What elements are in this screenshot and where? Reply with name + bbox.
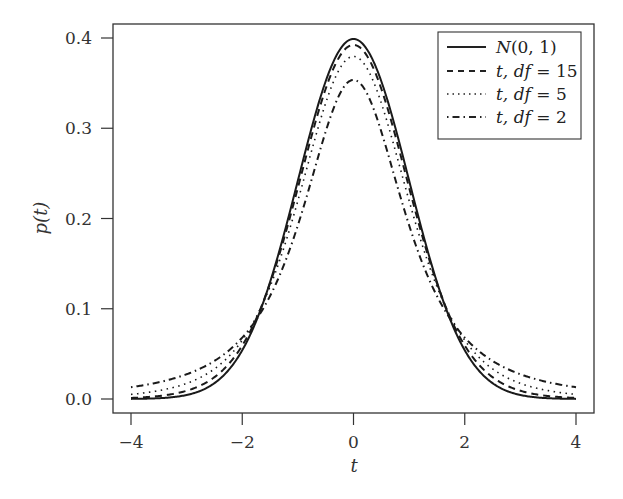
y-axis-label: p(t) <box>30 202 51 235</box>
x-axis-label: t <box>350 455 358 476</box>
legend-item-normal: N(0, 1) <box>495 37 557 57</box>
x-tick-label: −2 <box>230 432 255 452</box>
legend: N(0, 1) t, df = 15 t, df = 5 t, df = 2 <box>438 32 581 139</box>
y-tick-label: 0.3 <box>65 118 92 138</box>
x-axis: −4−2024 <box>118 413 581 452</box>
y-tick-label: 0.4 <box>65 28 92 48</box>
y-tick-label: 0.0 <box>65 389 92 409</box>
chart: 0.00.10.20.30.4 −4−2024 t p(t) N(0, 1) t… <box>0 0 623 499</box>
y-tick-label: 0.1 <box>65 299 92 319</box>
y-axis: 0.00.10.20.30.4 <box>65 28 113 409</box>
legend-item-t2: t, df = 2 <box>496 107 567 127</box>
legend-item-t5: t, df = 5 <box>496 84 567 104</box>
y-tick-label: 0.2 <box>65 209 92 229</box>
x-tick-label: −4 <box>118 432 143 452</box>
x-tick-label: 2 <box>459 432 470 452</box>
x-tick-label: 4 <box>571 432 582 452</box>
legend-item-t15: t, df = 15 <box>496 61 578 81</box>
x-tick-label: 0 <box>348 432 359 452</box>
